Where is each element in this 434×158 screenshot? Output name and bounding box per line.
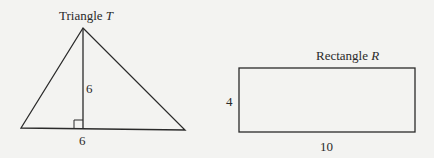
rectangle-title-variable: R [371, 48, 379, 63]
triangle-height-label: 6 [86, 82, 93, 95]
rectangle-height-label: 4 [226, 95, 233, 108]
triangle-base-label: 6 [79, 134, 86, 147]
rectangle-outline [239, 68, 415, 132]
triangle-title-prefix: Triangle [59, 8, 103, 23]
rectangle-width-label: 10 [320, 140, 333, 153]
triangle-title: Triangle T [59, 9, 113, 22]
geometry-figure [0, 0, 434, 158]
rectangle-r [239, 68, 415, 132]
right-angle-marker-icon [74, 120, 83, 129]
rectangle-title-prefix: Rectangle [316, 48, 368, 63]
triangle-title-variable: T [106, 8, 113, 23]
triangle-outline [21, 28, 185, 130]
triangle-t [21, 28, 185, 130]
rectangle-title: Rectangle R [316, 49, 379, 62]
